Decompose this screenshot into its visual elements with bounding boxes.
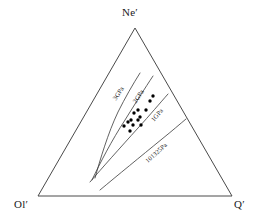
data-point xyxy=(132,111,135,114)
data-point xyxy=(128,129,131,132)
data-point xyxy=(129,118,132,121)
data-point xyxy=(126,120,129,123)
ternary-diagram-figure: Ne′Ol′Q′ 3GPa2GPa1GPa101325Pa xyxy=(0,0,260,221)
data-point xyxy=(144,108,147,111)
data-point xyxy=(131,123,134,126)
vertex-label-ol: Ol′ xyxy=(14,198,28,210)
data-point xyxy=(151,94,154,97)
diagram-canvas xyxy=(0,0,260,221)
vertex-label-ne: Ne′ xyxy=(122,6,138,18)
isobar-curve-c101325pa xyxy=(100,119,186,190)
data-point xyxy=(148,99,151,102)
data-point xyxy=(122,124,125,127)
data-point xyxy=(139,123,142,126)
data-point xyxy=(136,108,139,111)
vertex-label-q: Q′ xyxy=(234,198,245,210)
isobar-curve-c1gpa xyxy=(90,94,168,182)
data-point xyxy=(138,115,141,118)
data-point xyxy=(136,118,139,121)
